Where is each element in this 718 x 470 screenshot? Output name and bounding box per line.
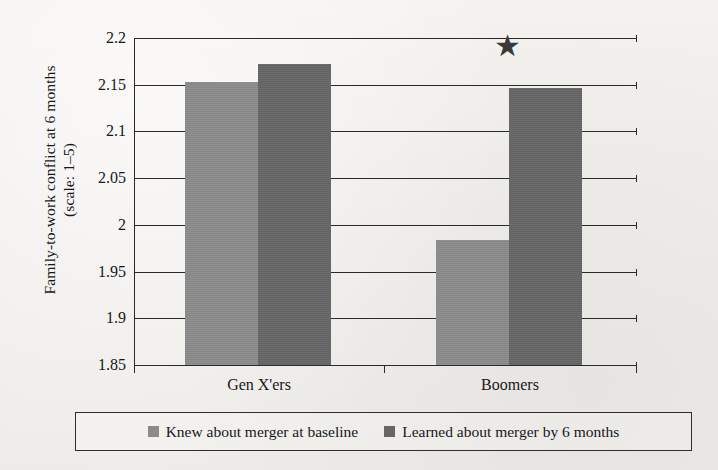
y-axis-tick-label: 1.9: [6, 310, 126, 326]
y-axis-tick-label: 2: [6, 217, 126, 233]
legend-entry-knew-about-merger: Knew about merger at baseline: [148, 423, 359, 441]
legend-entry-learned-about-merger: Learned about merger by 6 months: [384, 423, 619, 441]
y-axis-tick-label: 2.2: [6, 30, 126, 46]
bar-gen-xers-knew-at-baseline: [185, 82, 258, 365]
x-axis-tick-middle: [384, 365, 385, 373]
chart-legend: Knew about merger at baseline Learned ab…: [75, 412, 692, 451]
x-axis-line: [134, 365, 637, 366]
y-axis-tick-labels: 2.22.152.12.0521.951.91.85: [0, 0, 126, 470]
legend-swatch-icon-dark: [384, 426, 395, 437]
bar-gen-xers-learned-by-6-months: [258, 64, 331, 365]
gridline: [134, 38, 636, 39]
bar-boomers-knew-at-baseline: [436, 240, 509, 365]
x-axis-tick-right: [636, 365, 637, 373]
y-axis-tick-label: 1.85: [6, 357, 126, 373]
y-axis-tick-label: 2.05: [6, 170, 126, 186]
y-axis-tick-label: 2.15: [6, 77, 126, 93]
legend-label-knew-about-merger: Knew about merger at baseline: [166, 423, 359, 441]
x-axis-tick-left: [134, 365, 135, 373]
y-axis-tick-mark: [636, 269, 637, 276]
plot-area: [134, 38, 636, 365]
y-axis-tick-label: 1.95: [6, 264, 126, 280]
y-axis-tick-mark: [636, 35, 637, 42]
y-axis-tick-mark: [636, 175, 637, 182]
chart-page: Family-to-work conflict at 6 months(scal…: [0, 0, 718, 470]
y-axis-tick-mark: [636, 128, 637, 135]
bar-boomers-learned-by-6-months: [509, 88, 582, 365]
legend-swatch-icon-light: [148, 426, 159, 437]
y-axis-tick-label: 2.1: [6, 123, 126, 139]
y-axis-tick-mark: [636, 82, 637, 89]
y-axis-tick-mark: [636, 222, 637, 229]
legend-label-learned-about-merger: Learned about merger by 6 months: [402, 423, 619, 441]
significance-star-icon: ★: [494, 31, 521, 61]
y-axis-tick-mark: [636, 315, 637, 322]
category-label-gen-xers: Gen X'ers: [139, 375, 379, 395]
category-label-boomers: Boomers: [390, 375, 630, 395]
